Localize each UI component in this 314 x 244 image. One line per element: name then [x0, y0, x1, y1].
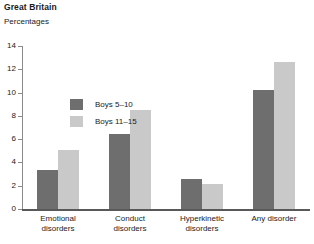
y-tick-label: 12 [7, 65, 16, 73]
page-subtitle: Percentages [4, 17, 49, 26]
x-label-line: disorders [94, 224, 166, 234]
bar [58, 150, 79, 208]
bar [253, 90, 274, 209]
bar [274, 62, 295, 209]
bar [202, 184, 223, 208]
x-label-line: disorders [166, 224, 238, 234]
x-label-line: Emotional [22, 214, 94, 224]
y-tick-label: 0 [12, 205, 16, 213]
x-axis-line [22, 209, 310, 211]
bar [181, 179, 202, 208]
y-tick-label: 14 [7, 42, 16, 50]
y-tick-label: 2 [12, 182, 16, 190]
y-axis-labels: 02468101214 [0, 46, 16, 210]
chart-legend: Boys 5–10Boys 11–15 [70, 96, 137, 130]
y-tick [18, 69, 22, 70]
legend-item[interactable]: Boys 5–10 [70, 96, 137, 113]
x-axis-category-label: Hyperkineticdisorders [166, 214, 238, 234]
y-tick-label: 10 [7, 89, 16, 97]
page-title: Great Britain [4, 2, 57, 12]
legend-label: Boys 5–10 [95, 100, 133, 109]
x-axis-category-label: Emotionaldisorders [22, 214, 94, 234]
x-label-line: Conduct [94, 214, 166, 224]
y-tick [18, 209, 22, 210]
x-axis-labels: EmotionaldisordersConductdisordersHyperk… [22, 214, 310, 244]
plot-area: Boys 5–10Boys 11–15 [22, 46, 310, 210]
legend-item[interactable]: Boys 11–15 [70, 113, 137, 130]
x-axis-category-label: Conductdisorders [94, 214, 166, 234]
y-tick-label: 8 [12, 112, 16, 120]
chart-page: Great Britain Percentages 02468101214 Bo… [0, 0, 314, 244]
bar-group [181, 46, 223, 209]
legend-swatch-icon [70, 99, 83, 110]
y-tick [18, 46, 22, 47]
x-label-line: Hyperkinetic [166, 214, 238, 224]
y-tick-label: 4 [12, 158, 16, 166]
x-label-line: Any disorder [238, 214, 310, 224]
x-axis-category-label: Any disorder [238, 214, 310, 224]
y-tick [18, 186, 22, 187]
y-tick [18, 93, 22, 94]
y-tick [18, 139, 22, 140]
y-tick-label: 6 [12, 135, 16, 143]
x-label-line: disorders [22, 224, 94, 234]
bar [37, 170, 58, 208]
y-tick [18, 116, 22, 117]
bar [109, 134, 130, 209]
bar-group [253, 46, 295, 209]
legend-swatch-icon [70, 116, 83, 127]
legend-label: Boys 11–15 [95, 117, 137, 126]
y-tick [18, 162, 22, 163]
y-axis-line [22, 46, 23, 209]
